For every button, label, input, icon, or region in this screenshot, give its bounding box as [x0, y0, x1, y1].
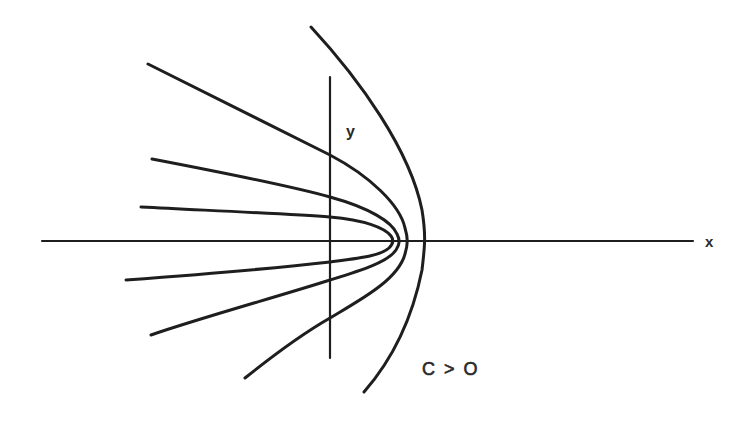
x-axis-label: x [705, 234, 713, 249]
curve-4 [126, 207, 393, 280]
diagram-figure: x y C > O [0, 0, 747, 424]
diagram-canvas [0, 0, 747, 424]
condition-label: C > O [422, 360, 480, 378]
curve-3 [151, 159, 399, 335]
y-axis-label: y [346, 124, 355, 140]
curve-2 [148, 64, 407, 378]
